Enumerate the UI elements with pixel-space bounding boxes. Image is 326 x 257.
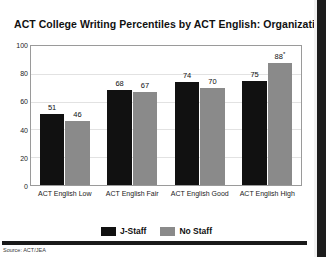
bar: 68: [107, 90, 131, 185]
y-tick-label: 0: [24, 183, 28, 190]
bar: 51: [40, 114, 64, 185]
bar-group: 7470: [175, 46, 225, 185]
bar-group: 5146: [40, 46, 90, 185]
y-axis: 100 80 60 40 20 0: [8, 45, 28, 186]
x-axis-labels: ACT English LowACT English FairACT Engli…: [31, 190, 301, 202]
chart-figure: ACT College Writing Percentiles by ACT E…: [0, 0, 313, 257]
legend-label: No Staff: [179, 226, 212, 236]
bar-value-label: 88*: [275, 52, 286, 61]
bar-value-label: 68: [115, 79, 123, 88]
bar: 67: [133, 92, 157, 185]
chart-legend: J-StaffNo Staff: [0, 226, 313, 236]
chart-page: ACT College Writing Percentiles by ACT E…: [0, 0, 326, 257]
x-axis-label: ACT English Good: [171, 190, 229, 197]
bar-value-label: 75: [250, 70, 258, 79]
bar: 88*: [268, 63, 292, 185]
legend-swatch: [160, 227, 175, 236]
y-tick-label: 100: [16, 42, 28, 49]
y-tick-label: 20: [20, 154, 28, 161]
footer-divider: [2, 241, 307, 245]
bar: 74: [175, 82, 199, 185]
y-tick-label: 40: [20, 126, 28, 133]
y-tick-label: 60: [20, 98, 28, 105]
bar-group: 7588*: [242, 46, 292, 185]
bar-value-label: 51: [48, 103, 56, 112]
bar: 46: [65, 121, 89, 185]
bar: 70: [200, 88, 224, 185]
page-edge-shadow: [317, 0, 326, 257]
source-note: Source: ACT/JEA: [3, 247, 46, 253]
bar-value-label: 74: [183, 71, 191, 80]
x-axis-label: ACT English Fair: [106, 190, 159, 197]
x-axis-label: ACT English Low: [38, 190, 92, 197]
y-tick-label: 80: [20, 70, 28, 77]
bar: 75: [242, 81, 266, 185]
bar-value-label: 46: [73, 110, 81, 119]
legend-label: J-Staff: [120, 226, 146, 236]
chart-title: ACT College Writing Percentiles by ACT E…: [14, 18, 306, 30]
bar-value-label: 67: [141, 81, 149, 90]
legend-item: J-Staff: [101, 226, 146, 236]
legend-swatch: [101, 227, 116, 236]
bar-group: 6867: [107, 46, 157, 185]
legend-item: No Staff: [160, 226, 212, 236]
bar-value-label: 70: [208, 77, 216, 86]
x-axis-label: ACT English High: [240, 190, 295, 197]
bars-layer: 5146686774707588*: [31, 46, 301, 185]
